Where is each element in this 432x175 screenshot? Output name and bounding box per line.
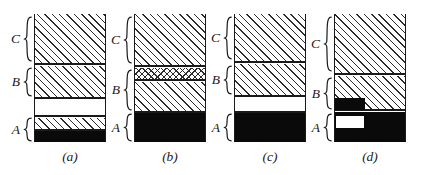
panel-d-tier-label-a: A bbox=[306, 121, 320, 135]
figure-four-column-diagrams: CBA(a)CBA(b)CBA(c)CBA(d) bbox=[0, 0, 432, 175]
panel-d-inset-white-block-a bbox=[335, 115, 365, 129]
panel-d-band-c-hatch bbox=[335, 14, 405, 74]
panel-d-inset-black-block-b bbox=[335, 98, 365, 110]
panel-d-column bbox=[334, 14, 406, 142]
panel-d-brace-b bbox=[323, 77, 332, 110]
panel-d-tier-label-b: B bbox=[306, 87, 320, 101]
panel-d-brace-c bbox=[323, 16, 332, 72]
panel-d-horizon-rule-1 bbox=[335, 73, 405, 75]
panel-d-brace-a bbox=[323, 113, 332, 142]
panel-d-tier-label-c: C bbox=[306, 37, 320, 51]
panel-d: CBA(d) bbox=[0, 0, 432, 175]
panel-d-caption: (d) bbox=[340, 150, 400, 164]
